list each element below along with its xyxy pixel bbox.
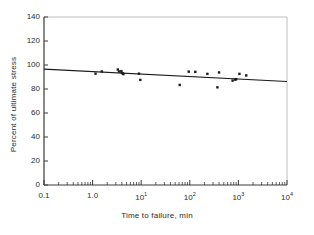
x-tick-label: 103 — [218, 191, 258, 202]
data-point — [179, 84, 181, 86]
x-tick-label: 0.1 — [24, 191, 64, 200]
data-point — [218, 71, 220, 73]
y-tick-label: 0 — [14, 180, 40, 189]
x-tick-label: 1.0 — [73, 191, 113, 200]
y-tick-label: 20 — [14, 156, 40, 165]
x-axis-title: Time to failure, min — [0, 211, 314, 220]
data-point — [206, 73, 208, 75]
y-tick-label: 100 — [14, 60, 40, 69]
x-tick-label: 101 — [121, 191, 161, 202]
x-tick-exponent: 1 — [144, 191, 147, 197]
data-point — [238, 73, 240, 75]
x-tick-label: 102 — [170, 191, 210, 202]
x-tick-label: 104 — [267, 191, 307, 202]
data-point — [139, 79, 141, 81]
data-point — [231, 79, 233, 81]
y-tick-label: 140 — [14, 12, 40, 21]
data-point — [245, 74, 247, 76]
data-point — [216, 86, 218, 88]
x-tick-exponent: 3 — [241, 191, 244, 197]
y-tick-label: 80 — [14, 84, 40, 93]
y-axis-title: Percent of ultimate stress — [9, 35, 18, 175]
x-tick-exponent: 2 — [193, 191, 196, 197]
y-tick-label: 40 — [14, 132, 40, 141]
figure-container: Time to failure, min Percent of ultimate… — [0, 0, 314, 235]
data-point — [194, 71, 196, 73]
data-point — [118, 70, 120, 72]
regression-line — [44, 69, 287, 81]
x-tick-exponent: 4 — [290, 191, 293, 197]
y-tick-label: 60 — [14, 108, 40, 117]
y-tick-label: 120 — [14, 36, 40, 45]
data-point — [94, 72, 96, 74]
data-point — [188, 70, 190, 72]
